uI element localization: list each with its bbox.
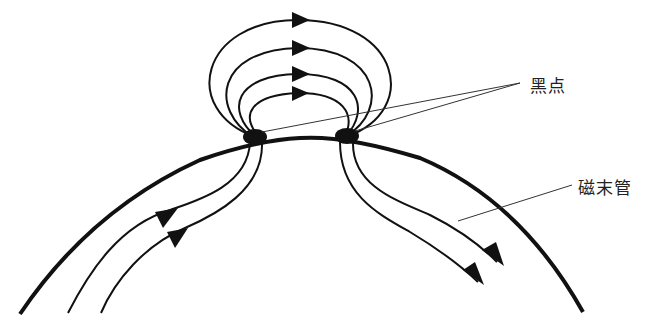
leader-lines <box>262 83 572 221</box>
magnetic-loops <box>209 20 390 137</box>
sunspot-diagram <box>0 0 658 329</box>
flux-tube-label: 磁末管 <box>578 174 632 199</box>
solar-surface-arc <box>20 138 583 314</box>
subsurface-lines-right <box>340 142 497 282</box>
sunspot-label: 黑点 <box>530 72 566 97</box>
loop-arrow-icons <box>292 12 310 101</box>
